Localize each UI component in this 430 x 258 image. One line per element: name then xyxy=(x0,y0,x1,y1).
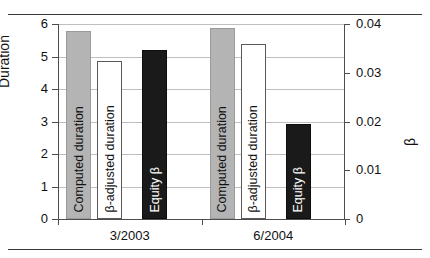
y-axis-right-tick-label: 0.01 xyxy=(356,163,396,176)
bar-label: Equity β xyxy=(148,167,161,212)
y-axis-right-tick xyxy=(344,24,350,25)
bar-label: Computed duration xyxy=(72,106,85,212)
y-axis-left-tick-label: 4 xyxy=(20,82,48,95)
y-axis-right-tick xyxy=(344,122,350,123)
x-axis-tick xyxy=(345,219,346,225)
y-axis-right-tick xyxy=(344,170,350,171)
bar-label: β-adjusted duration xyxy=(247,105,260,212)
bar-beta-adjusted-duration[interactable]: β-adjusted duration xyxy=(97,61,122,219)
y-axis-right-tick xyxy=(344,73,350,74)
bars-layer: Computed durationβ-adjusted durationEqui… xyxy=(58,24,345,219)
y-axis-right-label: β xyxy=(402,138,418,146)
y-axis-left-tick-label: 1 xyxy=(20,180,48,193)
y-axis-right-tick-label: 0.03 xyxy=(356,66,396,79)
y-axis-left-tick-label: 3 xyxy=(20,115,48,128)
top-rule xyxy=(8,14,422,15)
y-axis-left-tick xyxy=(52,122,58,123)
x-axis-category-label: 3/2003 xyxy=(58,228,202,243)
bar-equity-beta[interactable]: Equity β xyxy=(286,124,311,219)
y-axis-left-tick-label: 5 xyxy=(20,50,48,63)
bar-label: Computed duration xyxy=(216,106,229,212)
y-axis-left-tick-label: 0 xyxy=(20,212,48,225)
figure-container: Duration β Computed durationβ-adjusted d… xyxy=(0,0,430,258)
y-axis-right-tick-label: 0.02 xyxy=(356,115,396,128)
y-axis-right-tick-label: 0.04 xyxy=(356,17,396,30)
bar-computed-duration[interactable]: Computed duration xyxy=(66,31,91,219)
bar-label: Equity β xyxy=(292,167,305,212)
bar-equity-beta[interactable]: Equity β xyxy=(142,50,167,219)
x-axis-tick xyxy=(58,219,59,225)
bar-computed-duration[interactable]: Computed duration xyxy=(210,28,235,219)
y-axis-left-tick-label: 6 xyxy=(20,17,48,30)
y-axis-left-tick xyxy=(52,24,58,25)
bar-beta-adjusted-duration[interactable]: β-adjusted duration xyxy=(241,44,266,219)
y-axis-left-tick-label: 2 xyxy=(20,147,48,160)
y-axis-left-tick xyxy=(52,89,58,90)
y-axis-left-tick xyxy=(52,57,58,58)
bottom-rule xyxy=(8,249,422,250)
bar-label: β-adjusted duration xyxy=(103,105,116,212)
x-axis-category-label: 6/2004 xyxy=(202,228,346,243)
y-axis-left-tick xyxy=(52,187,58,188)
y-axis-right-tick-label: 0 xyxy=(356,212,396,225)
y-axis-left-label: Duration xyxy=(0,35,12,88)
x-axis-tick xyxy=(202,219,203,225)
y-axis-left-tick xyxy=(52,154,58,155)
